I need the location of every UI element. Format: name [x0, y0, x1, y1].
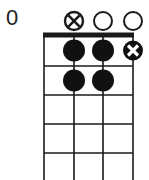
finger-dot-icon	[92, 70, 114, 92]
open-string-icon	[94, 12, 112, 30]
nut	[43, 33, 134, 38]
finger-dot-icon	[63, 40, 85, 62]
open-string-icon	[124, 12, 142, 30]
finger-dot-icon	[92, 40, 114, 62]
finger-dot-icon	[63, 70, 85, 92]
chord-grid	[0, 0, 149, 180]
